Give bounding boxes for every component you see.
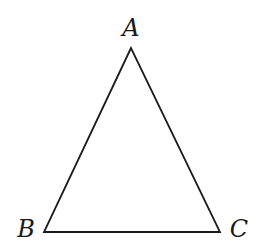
vertex-label-b: B: [16, 215, 35, 243]
vertex-label-c: C: [230, 215, 248, 243]
triangle-diagram: A B C: [0, 0, 270, 249]
vertex-label-a: A: [120, 14, 139, 42]
triangle-abc: [44, 48, 220, 232]
